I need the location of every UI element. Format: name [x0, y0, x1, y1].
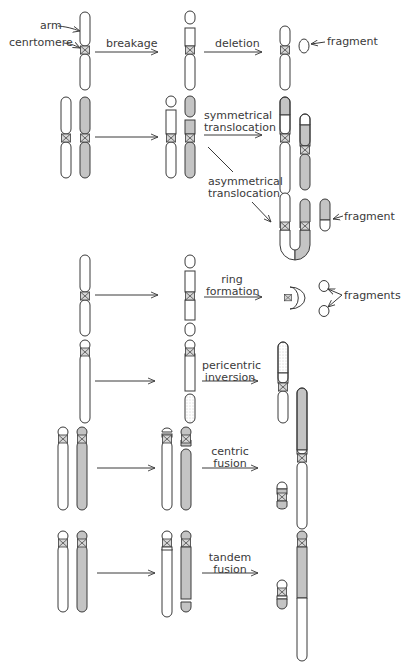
label-fragments-ring: fragments: [344, 290, 401, 302]
label-breakage: breakage: [106, 38, 157, 50]
row-centric-fusion: [58, 388, 307, 529]
label-symmetrical-line2: translocation: [204, 122, 260, 134]
label-centric-fusion: centric fusion: [204, 446, 256, 470]
label-symmetrical-translocation: symmetrical translocation: [204, 110, 260, 134]
label-asymmetrical-translocation: asymmetrical translocation: [208, 176, 272, 200]
row-asymmetrical-translocation: [252, 193, 343, 260]
label-fragment-deletion: fragment: [327, 36, 378, 48]
label-ring-formation: ring formation: [206, 274, 258, 298]
label-arm: arm: [40, 20, 62, 32]
label-pericentric-inversion: pericentric inversion: [202, 360, 258, 384]
label-tandem-line2: fusion: [204, 564, 256, 576]
label-deletion: deletion: [215, 38, 260, 50]
label-centromere: cenrtomere: [9, 37, 73, 49]
label-ring-line2: formation: [206, 286, 258, 298]
row-deletion: [58, 11, 325, 90]
label-centric-line2: fusion: [204, 458, 256, 470]
row-tandem-fusion: [58, 531, 307, 661]
label-tandem-fusion: tandem fusion: [204, 552, 256, 576]
label-fragment-asym: fragment: [344, 211, 395, 223]
label-asymmetrical-line2: translocation: [208, 188, 272, 200]
label-pericentric-line2: inversion: [202, 372, 258, 384]
